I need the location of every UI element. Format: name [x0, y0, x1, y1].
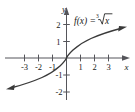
- radicand-label: x: [104, 16, 110, 26]
- x-tick-label-pos1: 1: [78, 62, 82, 72]
- cube-root-function-graph: -3 -2 -1 1 2 3 2 1 -1 -2 y x f(x) = 3 x: [0, 0, 135, 112]
- plot-area: -3 -2 -1 1 2 3 2 1 -1 -2 y x f(x) = 3 x: [0, 0, 135, 112]
- x-tick-label-pos3: 3: [106, 62, 110, 72]
- x-tick-label-pos2: 2: [92, 62, 96, 72]
- radical-index-label: 3: [96, 13, 99, 19]
- y-tick-label-neg1: -1: [55, 70, 62, 80]
- function-label-text: f(x) =: [74, 16, 96, 27]
- curve-right-arrow-icon: [118, 26, 127, 31]
- x-axis-label: x: [124, 62, 129, 72]
- x-axis-arrow-icon: [122, 55, 130, 61]
- y-tick-label-pos1: 1: [56, 37, 60, 47]
- x-tick-label-neg2: -2: [35, 62, 42, 72]
- y-axis-label: y: [61, 4, 66, 14]
- y-tick-label-neg2: -2: [55, 87, 62, 97]
- function-label: f(x) = 3 x: [74, 13, 112, 28]
- x-tick-label-neg3: -3: [21, 62, 28, 72]
- curve-left-arrow-icon: [6, 85, 15, 90]
- y-tick-label-pos2: 2: [56, 20, 60, 30]
